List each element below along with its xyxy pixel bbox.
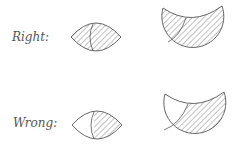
right-crescent xyxy=(150,0,235,75)
shading-comparison-figure: Right: Wrong: xyxy=(0,0,235,158)
diagram-shapes xyxy=(0,0,235,158)
right-lens xyxy=(60,10,130,70)
wrong-lens xyxy=(60,95,130,155)
wrong-crescent xyxy=(150,80,235,158)
